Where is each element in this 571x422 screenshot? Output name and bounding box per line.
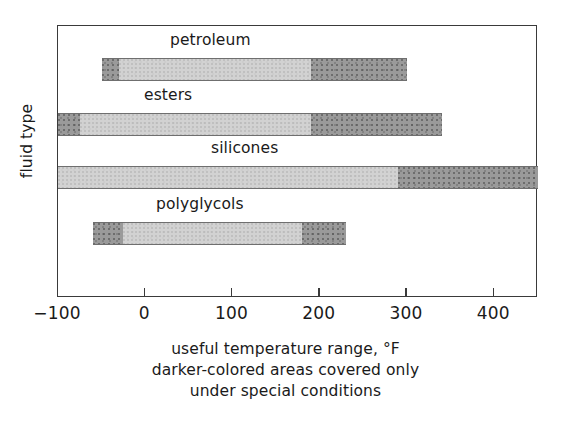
bar-label-petroleum: petroleum — [170, 31, 251, 49]
x-tick-label-0: 0 — [139, 303, 150, 323]
x-tick-label-200: 200 — [302, 303, 335, 323]
x-tick-label-300: 300 — [390, 303, 423, 323]
bar-segment-petroleum-light-1 — [119, 59, 311, 80]
bar-esters — [58, 113, 442, 136]
bar-row-esters — [58, 113, 536, 136]
bar-segment-esters-light-1 — [80, 114, 311, 135]
bar-silicones — [58, 166, 538, 189]
chart-captions: useful temperature range, °F darker-colo… — [0, 339, 571, 402]
caption-xaxis: useful temperature range, °F — [0, 339, 571, 360]
bar-petroleum — [102, 58, 407, 81]
x-tick-label-−100: −100 — [33, 303, 81, 323]
bar-segment-esters-dark-0 — [58, 114, 80, 135]
x-tick-200 — [318, 288, 319, 297]
bar-label-silicones: silicones — [211, 139, 278, 157]
bar-segment-silicones-light-0 — [58, 167, 398, 188]
bar-segment-polyglycols-light-1 — [123, 223, 302, 244]
plot-area: petroleumesterssiliconespolyglycols — [57, 25, 537, 297]
bar-row-polyglycols — [58, 222, 536, 245]
bar-label-polyglycols: polyglycols — [156, 195, 244, 213]
x-tick-300 — [405, 288, 406, 297]
x-tick-0 — [144, 288, 145, 297]
bar-segment-petroleum-dark-0 — [102, 59, 119, 80]
bar-segment-esters-dark-2 — [311, 114, 442, 135]
bar-label-esters: esters — [144, 86, 192, 104]
bar-segment-petroleum-dark-2 — [311, 59, 407, 80]
x-tick-label-400: 400 — [477, 303, 510, 323]
caption-note-line2: under special conditions — [0, 381, 571, 402]
x-tick-label-100: 100 — [215, 303, 248, 323]
bar-segment-silicones-dark-1 — [398, 167, 538, 188]
bar-row-silicones — [58, 166, 536, 189]
x-tick-100 — [231, 288, 232, 297]
y-axis-label: fluid type — [18, 81, 36, 201]
caption-note-line1: darker-colored areas covered only — [0, 360, 571, 381]
x-tick-400 — [493, 288, 494, 297]
bar-segment-polyglycols-dark-0 — [93, 223, 124, 244]
bar-row-petroleum — [58, 58, 536, 81]
bar-segment-polyglycols-dark-2 — [302, 223, 346, 244]
fluid-temperature-range-chart: fluid type petroleumesterssiliconespolyg… — [0, 0, 571, 422]
bar-polyglycols — [93, 222, 346, 245]
